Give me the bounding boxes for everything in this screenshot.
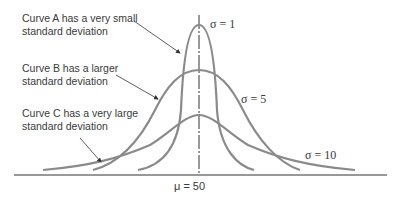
curve-b-label-line2: standard deviation [22, 75, 108, 87]
arrow-curve-b [116, 75, 158, 99]
mean-label: μ = 50 [174, 180, 205, 192]
curve-b-label-line1: Curve B has a larger [22, 62, 118, 74]
curve-c-label-line1: Curve C has a very large [22, 107, 138, 119]
curve-a-label-line1: Curve A has a very small [22, 12, 138, 24]
curve-c-label-line2: standard deviation [22, 120, 108, 132]
normal-curves-diagram: Curve A has a very small standard deviat… [0, 0, 400, 198]
arrow-curve-a [134, 21, 180, 53]
sigma-5-label: σ = 5 [241, 92, 266, 107]
curve-a-label-line2: standard deviation [22, 25, 108, 37]
sigma-10-label: σ = 10 [305, 148, 336, 163]
sigma-1-label: σ = 1 [210, 17, 235, 32]
arrow-curve-c [80, 138, 101, 162]
